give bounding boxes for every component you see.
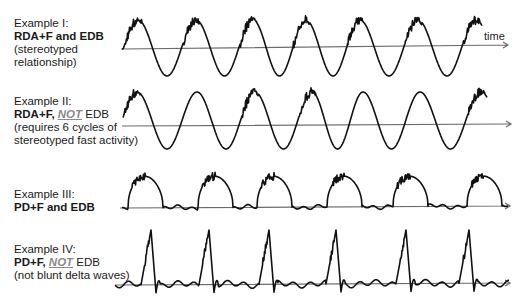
waveform-3 <box>122 172 508 210</box>
time-axis-label: time <box>484 30 505 42</box>
example-1-trace: time <box>121 16 508 76</box>
time-axis-1 <box>121 42 508 49</box>
example-3-trace <box>120 172 510 210</box>
waveform-2 <box>123 88 487 149</box>
example-2-trace <box>122 88 511 149</box>
waveform-canvas: time <box>0 0 524 304</box>
example-4-trace <box>115 230 510 293</box>
